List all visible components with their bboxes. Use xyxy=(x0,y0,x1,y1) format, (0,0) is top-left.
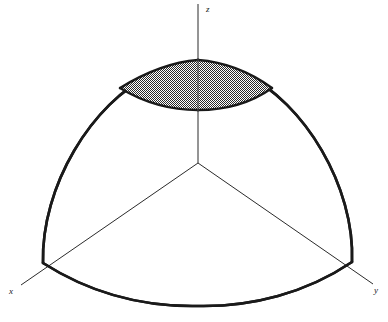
figure-canvas: z x y xyxy=(0,0,388,322)
z-axis-label: z xyxy=(205,4,210,14)
shaded-patch-fill xyxy=(120,60,272,110)
axes-group xyxy=(21,4,373,285)
spherical-surface-diagram: z x y xyxy=(0,0,388,322)
surface-front-equator-arc xyxy=(43,262,352,306)
x-axis-label: x xyxy=(8,286,13,296)
shaded-patch-group xyxy=(120,60,272,110)
y-axis-label: y xyxy=(373,285,378,295)
